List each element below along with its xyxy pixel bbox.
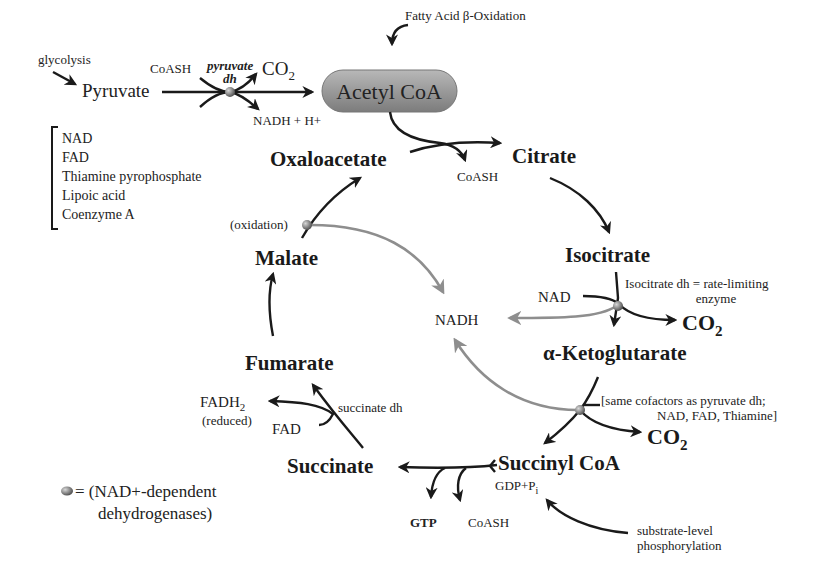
citrate-to-isocitrate-arrow (550, 178, 609, 232)
gtp-out-arrow (431, 468, 445, 497)
oxaloacetate-label: Oxaloacetate (270, 147, 387, 171)
cofactor-item: NAD (62, 131, 92, 146)
co2-pdh-label: CO2 (262, 58, 295, 83)
substrate-level-label: substrate-level (637, 523, 713, 538)
coash-succ-label: CoASH (468, 515, 509, 530)
akg-note: [same cofactors as pyruvate dh; (601, 393, 766, 408)
enzyme-dot-icon (575, 405, 585, 415)
isocitrate-label: Isocitrate (565, 243, 650, 267)
cofactor-item: Coenzyme A (62, 207, 136, 222)
succinylcoa-to-succinate-arrow (400, 465, 497, 468)
coash-succ-out-arrow (458, 468, 466, 500)
isocitrate-note-2: enzyme (696, 291, 737, 306)
gtp-label: GTP (410, 515, 437, 530)
fumarate-label: Fumarate (245, 351, 334, 375)
cofactor-item: FAD (62, 150, 89, 165)
fadh2-label: FADH2 (200, 394, 245, 413)
akg-co2-arrow (580, 410, 640, 432)
akg-note-2: NAD, FAD, Thiamine] (657, 408, 777, 423)
enzyme-dot-icon (302, 220, 312, 230)
acetyl-coa-node: Acetyl CoA (322, 70, 457, 112)
substrate-level-arrow (547, 500, 628, 533)
fatty-acid-arrow (392, 25, 408, 44)
glycolysis-label: glycolysis (38, 52, 91, 67)
succinate-label: Succinate (287, 454, 373, 478)
isocitrate-note: Isocitrate dh = rate-limiting (625, 276, 769, 291)
pyruvate-label: Pyruvate (82, 80, 150, 101)
fatty-acid-label: Fatty Acid β-Oxidation (405, 8, 526, 23)
fad-label: FAD (272, 421, 301, 437)
pyruvate-curve-lower (200, 92, 230, 107)
tca-cycle-diagram: glycolysis Pyruvate CoASH pyruvate dh CO… (0, 0, 839, 584)
nadh-center-label: NADH (435, 312, 478, 328)
coash-input-label: CoASH (150, 61, 191, 76)
enzyme-dot-icon (225, 87, 235, 97)
acetylcoa-to-coash-arrow (390, 112, 465, 160)
legend: = (NAD+-dependent dehydrogenases) (61, 482, 217, 523)
malate-label: Malate (255, 246, 318, 270)
bracket (52, 127, 58, 229)
glycolysis-arrow (53, 72, 75, 84)
legend-line-2: dehydrogenases) (98, 504, 212, 523)
nadh-h-label: NADH + H+ (253, 113, 321, 128)
isocitrate-co2-arrow (583, 296, 675, 320)
fumarate-to-malate-arrow (269, 274, 273, 336)
malate-nadh-arrow (310, 225, 443, 292)
gdp-pi-label: GDP+Pi (495, 478, 539, 496)
pyruvate-dh-label-2: dh (223, 71, 237, 86)
cofactor-item: Lipoic acid (62, 188, 125, 203)
alpha-ketoglutarate-label: α-Ketoglutarate (543, 341, 687, 365)
co2-akg-label: CO2 (647, 424, 688, 453)
substrate-level-label-2: phosphorylation (637, 538, 722, 553)
enzyme-dot-icon (613, 301, 623, 311)
succinate-dh-label: succinate dh (338, 400, 403, 415)
succinyl-coa-label: Succinyl CoA (498, 451, 621, 475)
cofactor-item: Thiamine pyrophosphate (62, 169, 202, 184)
nad-label: NAD (538, 289, 571, 305)
legend-line-1: = (NAD+-dependent (75, 482, 217, 501)
co2-isocitrate-label: CO2 (682, 310, 723, 339)
cofactor-list: NAD FAD Thiamine pyrophosphate Lipoic ac… (52, 127, 202, 229)
pyruvate-dehydrogenase-section: glycolysis Pyruvate CoASH pyruvate dh CO… (38, 52, 321, 128)
acetyl-coa-label: Acetyl CoA (336, 79, 442, 104)
succinate-to-fumarate-arrow (313, 385, 363, 448)
enzyme-dot-legend-icon (61, 487, 73, 496)
coash-citrate-label: CoASH (457, 169, 498, 184)
reduced-label: (reduced) (202, 413, 252, 428)
isocitrate-nadh-arrow (510, 306, 616, 318)
oxidation-label: (oxidation) (230, 217, 288, 232)
isocitrate-to-akg-arrow (614, 272, 618, 325)
citrate-label: Citrate (512, 144, 576, 168)
